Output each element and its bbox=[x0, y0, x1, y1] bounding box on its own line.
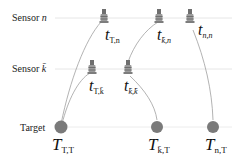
label-t-T-k: tT,k̄ bbox=[89, 77, 104, 96]
sensor-icon bbox=[124, 60, 133, 74]
sensor-icon bbox=[100, 9, 109, 23]
target-dot bbox=[55, 121, 68, 134]
label-t-k-k: tk̄,k̄ bbox=[124, 77, 138, 96]
curve-target-to-sensor-k bbox=[62, 73, 90, 124]
label-T-T-T: TT,T bbox=[52, 135, 75, 155]
label-T-n-T: Tn,T bbox=[205, 135, 227, 155]
label-t-n-n: tn,n bbox=[198, 21, 212, 40]
curve-n-to-target bbox=[193, 30, 213, 120]
row-label-target: Target bbox=[20, 122, 45, 133]
sensor-icon bbox=[88, 60, 97, 74]
timing-diagram: Sensor n Sensor k̄ Target tT,n tk̄,n tn,… bbox=[0, 0, 242, 163]
sensor-icon bbox=[155, 9, 164, 23]
target-dot bbox=[207, 121, 219, 133]
row-label-sensor-n: Sensor n bbox=[12, 12, 47, 23]
row-label-sensor-k: Sensor k̄ bbox=[12, 63, 47, 74]
target-dot bbox=[151, 121, 163, 133]
label-T-k-T: Tk̄,T bbox=[148, 135, 170, 155]
curve-k-to-sensor-n bbox=[128, 22, 158, 62]
label-t-k-n: tk̄,n bbox=[157, 26, 171, 45]
curve-k-to-target bbox=[130, 76, 157, 120]
label-t-T-n: tT,n bbox=[105, 26, 120, 45]
sensor-icon bbox=[186, 9, 195, 23]
